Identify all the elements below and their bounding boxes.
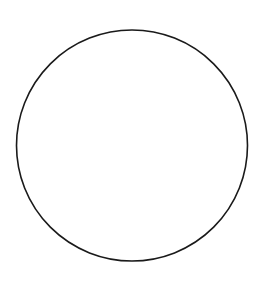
circle-outline	[17, 30, 248, 261]
diagram-canvas	[0, 0, 273, 289]
